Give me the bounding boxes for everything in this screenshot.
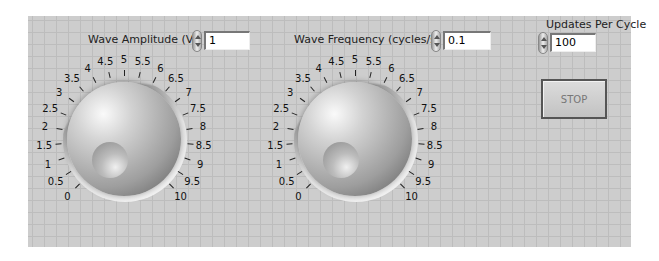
frequency-input[interactable]: 0.1	[443, 31, 491, 50]
knob-pointer[interactable]	[92, 142, 128, 178]
scale-tick	[290, 158, 296, 161]
scale-tick	[139, 72, 141, 78]
scale-tick	[306, 183, 311, 188]
scale-tick	[79, 86, 84, 91]
scale-tick	[414, 112, 420, 115]
amplitude-spinner[interactable]	[192, 30, 202, 52]
scale-tick	[418, 128, 424, 130]
scale-label: 6.5	[168, 73, 184, 84]
scale-tick	[56, 128, 62, 130]
scale-tick	[292, 112, 298, 115]
scale-label: 0.5	[48, 175, 64, 186]
scale-label: 8.5	[196, 140, 212, 151]
scale-tick	[124, 70, 125, 76]
scale-label: 8	[431, 121, 437, 132]
scale-tick	[396, 86, 401, 91]
scale-tick	[406, 98, 411, 102]
scale-tick	[287, 143, 293, 144]
scale-label: 6	[157, 62, 163, 73]
scale-label: 0	[64, 190, 70, 201]
scale-tick	[310, 86, 315, 91]
scale-label: 5.5	[366, 56, 382, 67]
scale-label: 8	[200, 121, 206, 132]
amplitude-label: Wave Amplitude (V)	[88, 33, 198, 46]
scale-label: 1.5	[267, 140, 283, 151]
scale-label: 8.5	[427, 140, 443, 151]
scale-label: 9	[197, 158, 203, 169]
scale-tick	[409, 171, 415, 175]
amplitude-knob[interactable]: 00.511.522.533.544.555.566.577.588.599.5…	[22, 60, 222, 230]
scale-tick	[400, 183, 405, 188]
scale-tick	[287, 128, 293, 130]
knob-pointer[interactable]	[323, 142, 359, 178]
updates-input[interactable]: 100	[550, 33, 596, 52]
scale-tick	[56, 143, 62, 144]
frequency-label: Wave Frequency (cycles/s)	[294, 33, 440, 46]
scale-label: 4.5	[328, 56, 344, 67]
scale-label: 1.5	[36, 140, 52, 151]
scale-label: 10	[174, 190, 187, 201]
scale-tick	[184, 158, 190, 161]
scale-label: 2	[273, 121, 279, 132]
knob-body[interactable]	[67, 82, 181, 196]
scale-label: 5.5	[135, 56, 151, 67]
scale-tick	[384, 77, 388, 83]
scale-label: 3	[287, 86, 293, 97]
scale-label: 4	[84, 62, 90, 73]
scale-label: 9.5	[415, 175, 431, 186]
scale-tick	[324, 77, 328, 83]
scale-label: 5	[352, 54, 358, 65]
scale-label: 6	[388, 62, 394, 73]
amplitude-input[interactable]: 1	[204, 31, 250, 50]
knob-body[interactable]	[298, 82, 412, 196]
scale-label: 7.5	[421, 103, 437, 114]
scale-tick	[59, 158, 65, 161]
stop-button[interactable]: STOP	[541, 79, 607, 119]
scale-label: 1	[45, 158, 51, 169]
scale-tick	[370, 72, 372, 78]
scale-label: 4	[315, 62, 321, 73]
scale-tick	[153, 77, 157, 83]
scale-tick	[178, 171, 184, 175]
scale-tick	[108, 72, 110, 78]
scale-label: 7	[186, 86, 192, 97]
frequency-knob[interactable]: 00.511.522.533.544.555.566.577.588.599.5…	[253, 60, 453, 230]
scale-tick	[339, 72, 341, 78]
scale-tick	[296, 171, 302, 175]
scale-label: 0.5	[279, 175, 295, 186]
scale-tick	[61, 112, 67, 115]
scale-label: 2.5	[273, 103, 289, 114]
scale-label: 3	[56, 86, 62, 97]
scale-tick	[65, 171, 71, 175]
scale-label: 3.5	[64, 73, 80, 84]
scale-label: 10	[405, 190, 418, 201]
scale-tick	[93, 77, 97, 83]
scale-tick	[355, 70, 356, 76]
scale-tick	[165, 86, 170, 91]
updates-spinner[interactable]	[538, 32, 548, 54]
scale-label: 1	[276, 158, 282, 169]
scale-label: 7	[417, 86, 423, 97]
scale-tick	[418, 143, 424, 144]
scale-label: 5	[121, 54, 127, 65]
scale-tick	[175, 98, 180, 102]
scale-label: 3.5	[295, 73, 311, 84]
scale-tick	[75, 183, 80, 188]
scale-tick	[187, 128, 193, 130]
scale-label: 2.5	[42, 103, 58, 114]
scale-label: 9	[428, 158, 434, 169]
scale-tick	[187, 143, 193, 144]
frequency-spinner[interactable]	[431, 30, 441, 52]
scale-tick	[415, 158, 421, 161]
scale-tick	[68, 98, 73, 102]
updates-label: Updates Per Cycle	[546, 18, 646, 31]
scale-tick	[183, 112, 189, 115]
scale-label: 2	[42, 121, 48, 132]
scale-label: 7.5	[190, 103, 206, 114]
scale-tick	[299, 98, 304, 102]
scale-label: 4.5	[97, 56, 113, 67]
scale-tick	[169, 183, 174, 188]
scale-label: 0	[295, 190, 301, 201]
scale-label: 9.5	[184, 175, 200, 186]
scale-label: 6.5	[399, 73, 415, 84]
